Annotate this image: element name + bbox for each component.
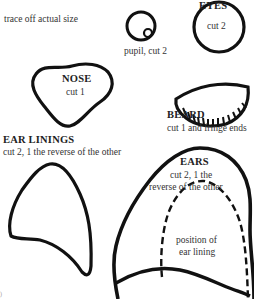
beard-title: BEARD <box>167 110 205 121</box>
lining-position-line2: ear lining <box>179 248 215 258</box>
pupil-cut-label: pupil, cut 2 <box>124 47 167 57</box>
trace-instruction: trace off actual size <box>4 15 78 25</box>
ear-linings-title: EAR LININGS <box>3 135 74 146</box>
svg-text:): ) <box>0 291 2 298</box>
ears-cut-line1: cut 2, 1 the <box>170 171 212 181</box>
nose-cut-label: cut 1 <box>66 88 85 98</box>
eye-cut-label: cut 2 <box>207 22 226 32</box>
ear-linings-cut-label: cut 2, 1 the reverse of the other <box>3 148 121 158</box>
nose-title: NOSE <box>62 74 91 85</box>
eyes-title: EYES <box>199 1 227 12</box>
ears-title: EARS <box>180 157 209 168</box>
ear-lining-piece <box>10 164 92 275</box>
ears-cut-line2: reverse of the other <box>149 183 223 193</box>
pupil-piece <box>127 12 155 40</box>
lining-position-line1: position of <box>176 236 217 246</box>
ear-base-curve <box>116 269 250 296</box>
beard-cut-label: cut 1 and fringe ends <box>167 124 247 134</box>
